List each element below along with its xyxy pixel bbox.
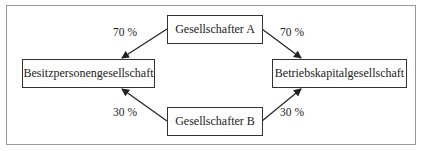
edge-label-a-left: 70 %: [113, 26, 137, 38]
edge-label-b-right: 30 %: [280, 106, 304, 118]
edge-label-a-right: 70 %: [280, 26, 304, 38]
node-shareholder-b: Gesellschafter B: [167, 107, 263, 136]
edge-label-b-left: 30 %: [113, 106, 137, 118]
node-shareholder-a: Gesellschafter A: [167, 15, 263, 44]
node-operating-company: Betriebskapitalgesellschaft: [272, 59, 407, 88]
node-holding-company: Besitzpersonengesellschaft: [22, 59, 155, 88]
